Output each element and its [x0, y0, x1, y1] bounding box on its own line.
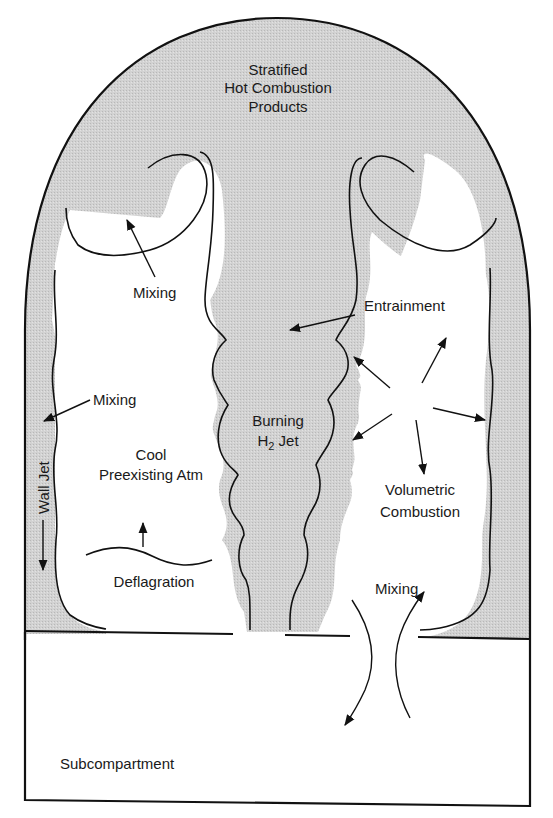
label-stratified-2: Hot Combustion	[224, 79, 332, 96]
label-volumetric-1: Volumetric	[385, 481, 456, 498]
combustion-diagram: Stratified Hot Combustion Products Mixin…	[0, 0, 553, 818]
label-mixing-vent: Mixing	[375, 580, 418, 597]
label-volumetric-2: Combustion	[380, 503, 460, 520]
label-stratified-3: Products	[248, 98, 307, 115]
label-entrainment: Entrainment	[364, 297, 446, 314]
label-deflagration: Deflagration	[114, 573, 195, 590]
mixing-upper-arrow	[127, 220, 155, 277]
label-cool-1: Cool	[136, 446, 167, 463]
label-subcompartment: Subcompartment	[60, 755, 175, 772]
subcompartment-box	[25, 632, 530, 806]
label-mixing-wall: Mixing	[93, 391, 136, 408]
label-mixing-upper: Mixing	[133, 284, 176, 301]
floor-middle	[285, 635, 350, 636]
label-cool-2: Preexisting Atm	[99, 466, 203, 483]
label-burning-1: Burning	[252, 412, 304, 429]
label-wall-jet: Wall Jet	[35, 460, 52, 514]
label-stratified-1: Stratified	[248, 61, 307, 78]
